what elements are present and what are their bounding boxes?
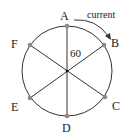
label-c: C: [112, 99, 120, 113]
circle-diagram: A B C D E F 60 current: [0, 0, 136, 135]
point-b: [102, 43, 107, 48]
label-d: D: [62, 121, 71, 135]
center-point: [66, 70, 69, 73]
point-f: [28, 43, 33, 48]
angle-label: 60: [70, 47, 82, 59]
label-f: F: [11, 37, 18, 51]
point-d: [65, 114, 70, 119]
point-e: [28, 96, 33, 101]
label-e: E: [11, 100, 18, 114]
label-a: A: [60, 9, 69, 23]
label-b: B: [111, 36, 119, 50]
arrow-label: current: [87, 9, 116, 20]
point-a: [65, 24, 70, 29]
point-c: [103, 95, 108, 100]
current-arrow: [74, 20, 109, 37]
